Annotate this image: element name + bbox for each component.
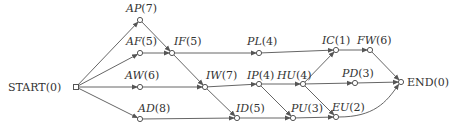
label-af: AF(5) xyxy=(125,35,157,48)
node-if xyxy=(169,50,174,55)
label-ip: IP(4) xyxy=(246,69,274,82)
node-ic xyxy=(333,47,338,52)
label-pu: PU(3) xyxy=(290,102,323,115)
node-pd xyxy=(352,80,357,85)
label-start: START(0) xyxy=(8,81,61,94)
edge-ip-to-pu xyxy=(261,86,291,116)
label-ap: AP(7) xyxy=(125,2,157,15)
label-if: IF(5) xyxy=(173,35,202,48)
node-ad xyxy=(137,116,142,121)
edge-pl-to-ic xyxy=(262,50,333,53)
node-pl xyxy=(256,50,261,55)
node-ap xyxy=(137,17,142,22)
label-pl: PL(4) xyxy=(246,35,277,48)
node-hu xyxy=(300,81,305,86)
node-aw xyxy=(137,84,142,89)
label-iw: IW(7) xyxy=(205,69,237,82)
label-ad: AD(8) xyxy=(137,102,170,115)
edge-pu-to-eu xyxy=(296,117,333,118)
label-end: END(0) xyxy=(407,76,449,89)
edge-ad-to-id xyxy=(143,118,234,119)
edge-iw-to-ip xyxy=(208,84,256,87)
label-hu: HU(4) xyxy=(276,69,311,82)
label-ic: IC(1) xyxy=(321,34,350,47)
edge-pd-to-end xyxy=(358,82,398,83)
node-ip xyxy=(256,81,261,86)
edge-start-to-ad xyxy=(78,88,137,117)
node-end xyxy=(398,79,403,84)
node-start xyxy=(74,85,79,90)
label-eu: EU(2) xyxy=(331,101,365,114)
labels: START(0)AP(7)AF(5)AW(6)AD(8)IF(5)PL(4)IW… xyxy=(8,2,449,115)
label-aw: AW(6) xyxy=(124,69,159,82)
label-id: ID(5) xyxy=(235,102,265,115)
edge-iw-to-id xyxy=(207,89,235,116)
node-id xyxy=(234,115,239,120)
node-pu xyxy=(290,115,295,120)
activity-network-diagram: START(0)AP(7)AF(5)AW(6)AD(8)IF(5)PL(4)IW… xyxy=(0,0,465,128)
node-af xyxy=(137,50,142,55)
edge-fw-to-end xyxy=(372,52,399,80)
node-iw xyxy=(202,84,207,89)
edge-hu-to-pd xyxy=(306,83,352,84)
node-eu xyxy=(333,114,338,119)
node-fw xyxy=(367,47,372,52)
label-fw: FW(6) xyxy=(356,34,392,47)
label-pd: PD(3) xyxy=(341,67,374,80)
edge-if-to-iw xyxy=(174,55,203,85)
